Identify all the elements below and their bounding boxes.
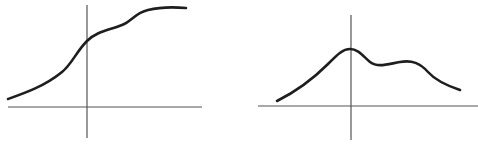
left-curve	[8, 7, 186, 99]
figure-canvas	[0, 0, 478, 148]
right-graph	[258, 15, 478, 140]
right-curve	[277, 49, 460, 101]
left-graph	[8, 5, 202, 138]
